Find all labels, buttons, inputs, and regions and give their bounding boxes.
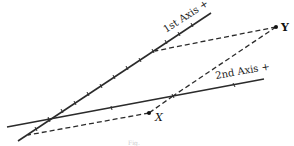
- second-axis: [7, 79, 264, 127]
- first-axis: [18, 13, 211, 141]
- point-x: [147, 111, 151, 115]
- diagram-canvas: 1st Axis + 2nd Axis + Y X Fig.: [0, 0, 294, 146]
- point-y-label: Y: [280, 21, 289, 34]
- point-x-label: X: [154, 111, 164, 124]
- second-axis-label: 2nd Axis +: [214, 61, 270, 81]
- projection-x-to-first-axis: [28, 113, 149, 135]
- figure-caption: Fig.: [128, 139, 140, 146]
- point-y: [274, 25, 278, 29]
